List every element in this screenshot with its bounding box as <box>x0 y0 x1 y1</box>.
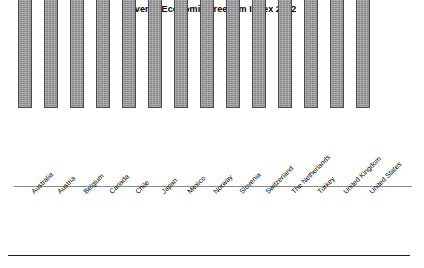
bar-group: 62.9 <box>226 0 240 108</box>
bar <box>304 0 318 108</box>
bar-group: 69 <box>70 0 84 108</box>
bar <box>122 0 136 108</box>
bar <box>200 0 214 108</box>
bar <box>148 0 162 108</box>
bar <box>330 0 344 108</box>
bar <box>252 0 266 108</box>
bar-group: 73.3 <box>278 0 292 108</box>
bar <box>18 0 32 108</box>
category-axis-labels: AustraliaAustriaBelgiumCanadaChileJapanM… <box>0 188 424 248</box>
bar-group: 74.1 <box>330 0 344 108</box>
bar-group: 81.1 <box>252 0 266 108</box>
bar-group: 79.9 <box>96 0 110 108</box>
bar-group: 76.3 <box>356 0 370 108</box>
bar <box>70 0 84 108</box>
bar-group: 65.3 <box>174 0 188 108</box>
bar-group: 62.5 <box>304 0 318 108</box>
bar <box>356 0 370 108</box>
bar <box>96 0 110 108</box>
plot-area: 83.170.36979.978.371.665.368.862.981.173… <box>0 0 424 190</box>
bar-group: 68.8 <box>200 0 214 108</box>
bar <box>278 0 292 108</box>
bar <box>226 0 240 108</box>
bar <box>174 0 188 108</box>
economic-freedom-bar-chart: Overall Economic Freedom Index 2012 83.1… <box>0 0 424 268</box>
bar <box>44 0 58 108</box>
bar-group: 83.1 <box>18 0 32 108</box>
footer-divider-rule <box>8 255 410 256</box>
bar-group: 71.6 <box>148 0 162 108</box>
bar-group: 78.3 <box>122 0 136 108</box>
bar-group: 70.3 <box>44 0 58 108</box>
